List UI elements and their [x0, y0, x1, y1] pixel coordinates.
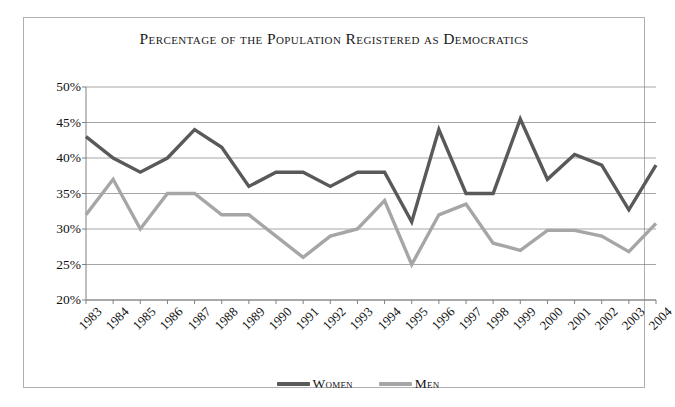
y-tick-label: 25% — [41, 258, 81, 272]
series-line-men — [86, 179, 656, 264]
legend-swatch-men — [379, 382, 412, 386]
legend-label: Women — [313, 376, 353, 392]
y-tick-label: 40% — [41, 151, 81, 165]
line-chart-svg — [86, 87, 656, 300]
y-tick-label: 20% — [41, 293, 81, 307]
y-tick-label: 50% — [41, 80, 81, 94]
y-axis-tick-labels: 50%45%40%35%30%25%20% — [36, 87, 81, 300]
legend-item-men[interactable]: Men — [379, 376, 440, 392]
y-tick-label: 30% — [41, 222, 81, 236]
legend-swatch-women — [277, 382, 310, 386]
legend-label: Men — [415, 376, 440, 392]
y-tick-label: 45% — [41, 116, 81, 130]
y-tick-label: 35% — [41, 187, 81, 201]
legend-item-women[interactable]: Women — [277, 376, 353, 392]
plot-area — [86, 87, 656, 300]
chart-frame: Percentage of the Population Registered … — [23, 17, 645, 388]
series-line-women — [86, 119, 656, 222]
x-axis-tick-labels: 1983198419851986198719881989199019911992… — [86, 304, 656, 364]
chart-title: Percentage of the Population Registered … — [64, 28, 604, 49]
chart-legend: WomenMen — [47, 376, 669, 392]
